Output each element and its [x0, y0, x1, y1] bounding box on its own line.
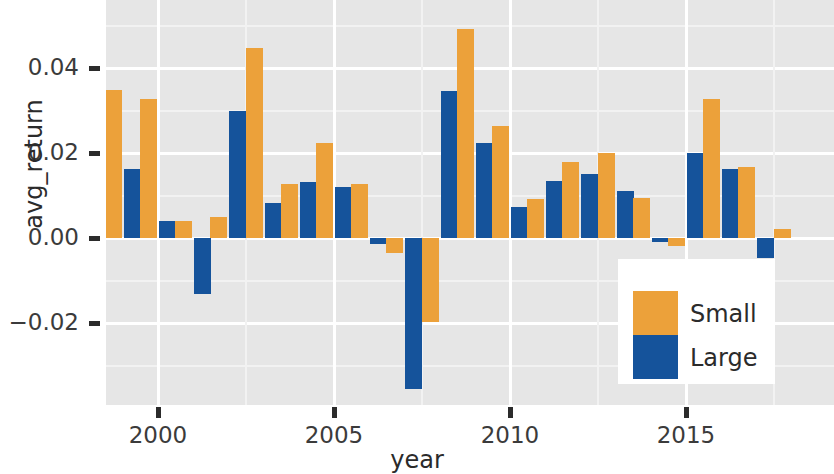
bar-small-2010 — [492, 126, 509, 238]
x-axis-title: year — [0, 446, 834, 474]
x-tick-mark — [156, 407, 161, 418]
bar-large-2013 — [617, 191, 634, 238]
chart-figure: 0.040.020.00−0.022000200520102015 avg_re… — [0, 0, 834, 474]
bar-small-2003 — [246, 48, 263, 238]
bar-small-2007 — [386, 238, 403, 253]
bar-small-2011 — [527, 199, 544, 238]
legend-label-large[interactable]: Large — [690, 346, 758, 370]
bar-small-2015 — [668, 238, 685, 246]
bar-large-2007 — [405, 238, 422, 389]
bar-small-2014 — [633, 198, 650, 238]
bar-small-2004 — [281, 184, 298, 238]
chart-legend[interactable]: SmallLarge — [618, 259, 775, 384]
bar-large-2006 — [370, 238, 387, 244]
x-tick-mark — [332, 407, 337, 418]
bar-small-2012 — [562, 162, 579, 238]
bar-small-2017 — [738, 167, 755, 238]
x-tick-mark — [508, 407, 513, 418]
bar-large-2011 — [546, 181, 563, 238]
bar-large-2003 — [265, 203, 282, 238]
bar-large-2017 — [757, 238, 774, 258]
legend-swatch-small[interactable] — [633, 291, 678, 335]
bar-large-1999 — [124, 169, 141, 238]
bar-small-2000 — [140, 99, 157, 238]
bar-large-2012 — [581, 174, 598, 238]
legend-swatch-large[interactable] — [633, 335, 678, 379]
bar-large-2005 — [335, 187, 352, 238]
bar-small-2018 — [774, 229, 791, 238]
bar-large-2004 — [300, 182, 317, 238]
bar-large-2009 — [476, 143, 493, 238]
x-tick-label: 2015 — [626, 424, 746, 447]
bar-small-2016 — [703, 99, 720, 238]
bar-large-2016 — [722, 169, 739, 238]
bar-large-2015 — [687, 153, 704, 238]
bar-large-2000 — [159, 221, 176, 238]
bar-large-2001 — [194, 238, 211, 294]
y-tick-mark — [89, 236, 100, 241]
bar-small-2001 — [175, 221, 192, 238]
x-tick-label: 2000 — [98, 424, 218, 447]
bar-small-2006 — [351, 184, 368, 238]
y-tick-label: −0.02 — [9, 311, 79, 334]
gridline-horizontal-minor — [106, 25, 834, 27]
bar-small-2002 — [210, 217, 227, 238]
bar-large-2008 — [441, 91, 458, 238]
y-axis-title: avg_return — [20, 74, 48, 254]
x-tick-label: 2010 — [450, 424, 570, 447]
y-tick-mark — [89, 66, 100, 71]
bar-small-1999 — [106, 90, 122, 238]
bar-small-2013 — [598, 153, 615, 238]
y-tick-mark — [89, 151, 100, 156]
legend-label-small[interactable]: Small — [690, 302, 757, 326]
x-tick-label: 2005 — [274, 424, 394, 447]
bar-small-2008 — [422, 238, 439, 322]
bar-small-2009 — [457, 29, 474, 238]
bar-large-2010 — [511, 207, 528, 238]
x-tick-mark — [684, 407, 689, 418]
bar-small-2005 — [316, 143, 333, 238]
y-tick-mark — [89, 321, 100, 326]
bar-large-2014 — [652, 238, 669, 242]
bar-large-2002 — [229, 111, 246, 239]
